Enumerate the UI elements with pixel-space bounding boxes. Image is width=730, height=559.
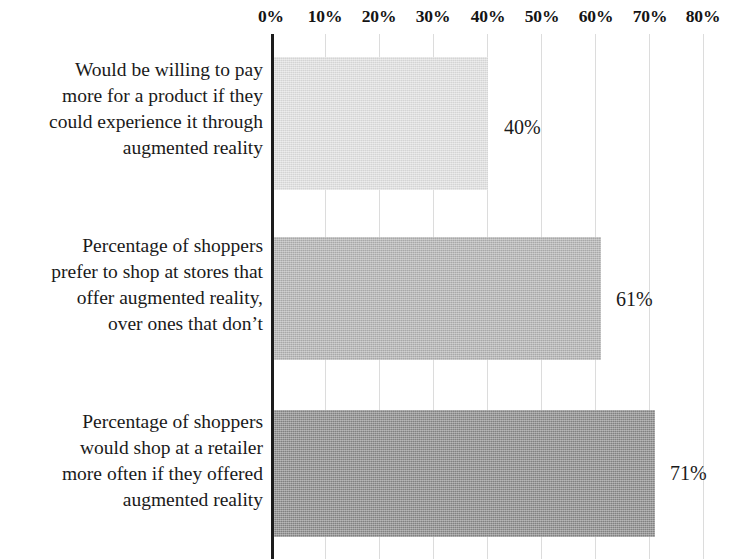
plot-area: 40% 61% 71%	[271, 34, 730, 559]
x-axis-tick-30: 30%	[416, 6, 451, 26]
category-label-3-line-4: augmented reality	[9, 487, 263, 513]
category-label-2-line-1: Percentage of shoppers	[9, 233, 263, 259]
x-axis-tick-80: 80%	[686, 6, 721, 26]
category-label-3-line-1: Percentage of shoppers	[9, 409, 263, 435]
y-axis-line	[271, 34, 274, 559]
x-axis-tick-40: 40%	[471, 6, 506, 26]
category-label-column: Would be willing to pay more for a produ…	[0, 34, 271, 559]
x-axis-tick-60: 60%	[579, 6, 614, 26]
bar-1-fill	[272, 57, 488, 190]
x-axis-tick-70: 70%	[633, 6, 668, 26]
bar-chart: 0% 10% 20% 30% 40% 50% 60% 70% 80% Would…	[0, 0, 730, 559]
x-axis-tick-20: 20%	[362, 6, 397, 26]
category-label-3-line-2: would shop at a retailer	[9, 435, 263, 461]
category-label-2-line-3: offer augmented reality,	[9, 285, 263, 311]
bar-3-fill	[272, 410, 655, 537]
x-axis-tick-10: 10%	[308, 6, 343, 26]
category-label-1-line-1: Would be willing to pay	[9, 57, 263, 83]
category-label-1: Would be willing to pay more for a produ…	[9, 57, 271, 161]
category-label-2-line-4: over ones that don’t	[9, 311, 263, 337]
category-label-2: Percentage of shoppers prefer to shop at…	[9, 233, 271, 337]
x-axis-tick-0: 0%	[258, 6, 284, 26]
bar-2-value-label: 61%	[616, 288, 653, 310]
bar-1	[272, 57, 488, 190]
x-axis-tick-labels: 0% 10% 20% 30% 40% 50% 60% 70% 80%	[0, 0, 730, 34]
category-label-1-line-4: augmented reality	[9, 135, 263, 161]
category-label-1-line-2: more for a product if they	[9, 83, 263, 109]
x-axis-tick-50: 50%	[525, 6, 560, 26]
bar-2-fill	[272, 237, 601, 360]
category-label-3: Percentage of shoppers would shop at a r…	[9, 409, 271, 513]
bar-3-value-label: 71%	[670, 462, 707, 484]
category-label-2-line-2: prefer to shop at stores that	[9, 259, 263, 285]
bar-3	[272, 410, 655, 537]
category-label-3-line-3: more often if they offered	[9, 461, 263, 487]
bar-2	[272, 237, 601, 360]
category-label-1-line-3: could experience it through	[9, 109, 263, 135]
bar-1-value-label: 40%	[504, 116, 541, 138]
